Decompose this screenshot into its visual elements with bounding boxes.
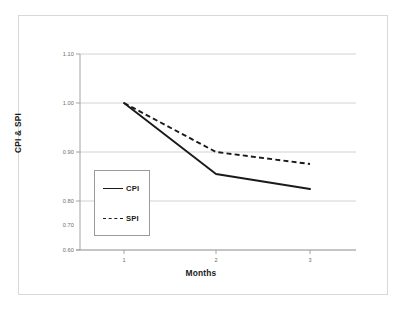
legend-swatch-solid-line-icon xyxy=(103,188,123,189)
ytick-label-090: 0.90 xyxy=(48,149,74,155)
xtick-label-1: 1 xyxy=(114,257,134,263)
series-line-spi xyxy=(124,103,310,164)
x-axis-title: Months xyxy=(0,268,402,278)
ytick-label-110: 1.10 xyxy=(48,51,74,57)
y-axis-title: CPI & SPI xyxy=(13,93,23,173)
chart-figure: 1.10 1.00 0.90 0.80 0.70 0.60 1 2 3 Mont… xyxy=(0,0,402,321)
legend-label-spi: SPI xyxy=(126,214,139,223)
series-line-cpi xyxy=(124,103,310,189)
ytick-label-100: 1.00 xyxy=(48,100,74,106)
ytick-label-060: 0.60 xyxy=(48,247,74,253)
legend-item-cpi: CPI xyxy=(103,184,139,193)
legend-label-cpi: CPI xyxy=(126,184,139,193)
xtick-label-3: 3 xyxy=(300,257,320,263)
ytick-label-080: 0.80 xyxy=(48,198,74,204)
legend-swatch-dashed-line-icon xyxy=(103,218,123,219)
xtick-label-2: 2 xyxy=(206,257,226,263)
ytick-label-070: 0.70 xyxy=(48,222,74,228)
legend-item-spi: SPI xyxy=(103,214,139,223)
chart-legend: CPI SPI xyxy=(94,170,150,236)
